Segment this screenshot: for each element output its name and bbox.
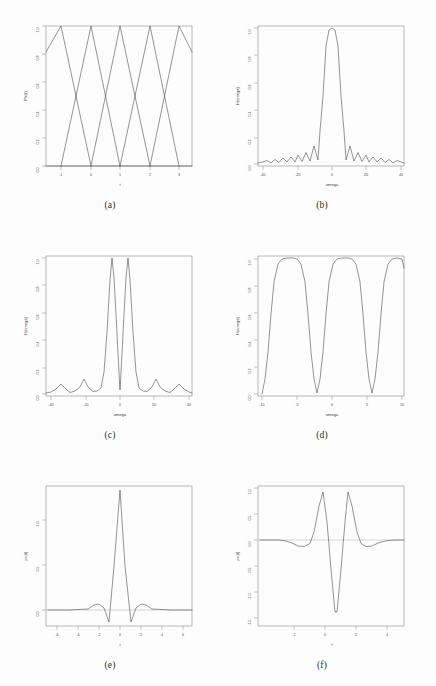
- panel-e-xtick-1: -4: [76, 633, 79, 637]
- panel-b-ylabel: H(omega): [235, 86, 240, 104]
- panel-b-ytick-1: 0.8: [248, 56, 252, 61]
- panel-d-xtick-3: 5: [366, 403, 368, 407]
- panel-e-ytick-1: 0.5: [36, 566, 40, 571]
- panel-d-xtick-0: -10: [259, 403, 264, 407]
- panel-d-xtick-2: 0: [331, 403, 333, 407]
- panel-d: 1.0 0.8 0.6 0.4 0.2 0.0 -10 -5 0 5: [224, 244, 420, 460]
- panel-f-xtick-2: 2: [355, 633, 357, 637]
- panel-f-ytick-2: 0.0: [248, 541, 252, 546]
- panel-c-xticks: -40 -20 0 20 40: [48, 396, 191, 407]
- panel-d-frame: [258, 256, 404, 396]
- panel-c-xtick-3: 20: [152, 403, 156, 407]
- panel-c-xlabel: omega: [114, 412, 127, 417]
- panel-d-ytick-1: 0.8: [248, 287, 252, 292]
- panel-e-xtick-4: 2: [140, 633, 142, 637]
- panel-a-ytick-0: 1.0: [36, 27, 40, 32]
- panel-f-ytick-1: 0.5: [248, 515, 252, 520]
- panel-f-ytick-4: -1.0: [248, 593, 252, 599]
- panel-e-frame: [46, 486, 192, 626]
- panel-a-xtick-0: -1: [59, 173, 62, 177]
- panel-c-ytick-3: 0.4: [36, 341, 40, 346]
- panel-c-caption: (c): [12, 430, 208, 440]
- panel-d-xticks: -10 -5 0 5 10: [259, 396, 404, 407]
- panel-a-xtick-3: 2: [149, 173, 151, 177]
- panel-c-xtick-2: 0: [119, 403, 121, 407]
- panel-b-plot: 1.0 0.8 0.6 0.4 0.2 0.0 -40 -20 0 20: [224, 14, 420, 200]
- panel-b-frame: [258, 26, 404, 166]
- panel-b-xtick-0: -40: [260, 173, 265, 177]
- panel-d-curve: [262, 258, 404, 394]
- panel-c-xtick-1: -20: [83, 403, 88, 407]
- panel-e-xtick-3: 0: [119, 633, 121, 637]
- panel-d-xlabel: omega: [326, 412, 339, 417]
- panel-f-xtick-1: 0: [324, 633, 326, 637]
- panel-f-ylabel: psi(t): [235, 551, 240, 561]
- panel-e: 1.0 0.5 0.0 -6 -4 -2 0 2: [12, 474, 208, 686]
- panel-d-ytick-0: 1.0: [248, 260, 252, 265]
- panel-a-ytick-3: 0.4: [36, 111, 40, 116]
- panel-c-yticks: 1.0 0.8 0.6 0.4 0.2 0.0: [36, 258, 46, 400]
- panel-c-ytick-5: 0.0: [36, 395, 40, 400]
- panel-a-xticks: -1 0 1 2 3: [59, 166, 180, 177]
- panel-c-ytick-4: 0.2: [36, 369, 40, 374]
- panel-d-ytick-5: 0.0: [248, 395, 252, 400]
- panel-b-caption: (b): [224, 200, 420, 210]
- panel-d-caption: (d): [224, 430, 420, 440]
- panel-e-xtick-2: -2: [97, 633, 100, 637]
- panel-a-ylabel: Phi(t): [23, 91, 28, 101]
- panel-b-ytick-3: 0.4: [248, 111, 252, 116]
- panel-b-curve: [258, 28, 404, 163]
- panel-d-ytick-3: 0.4: [248, 341, 252, 346]
- panel-e-xlabel: t: [119, 642, 121, 647]
- panel-a-xtick-4: 3: [178, 173, 180, 177]
- panel-a-frame: [46, 26, 192, 166]
- panel-f-svg: 1.0 0.5 0.0 -0.5 -1.0 -1.5 -2 0 2 4: [224, 474, 420, 660]
- panel-e-curve: [48, 490, 192, 622]
- panel-c: 1.0 0.8 0.6 0.4 0.2 0.0 -40 -20 0 20: [12, 244, 208, 460]
- panel-b-xtick-3: 20: [364, 173, 368, 177]
- panel-b: 1.0 0.8 0.6 0.4 0.2 0.0 -40 -20 0 20: [224, 14, 420, 230]
- panel-b-yticks: 1.0 0.8 0.6 0.4 0.2 0.0: [248, 28, 258, 170]
- panel-f-caption: (f): [224, 660, 420, 670]
- panel-e-plot: 1.0 0.5 0.0 -6 -4 -2 0 2: [12, 474, 208, 660]
- panel-c-xtick-4: 40: [187, 403, 191, 407]
- panel-c-svg: 1.0 0.8 0.6 0.4 0.2 0.0 -40 -20 0 20: [12, 244, 208, 430]
- panel-a-yticks: 1.0 0.8 0.6 0.4 0.2 0.0: [36, 26, 46, 172]
- panel-b-xticks: -40 -20 0 20 40: [260, 166, 403, 177]
- panel-f-ytick-0: 1.0: [248, 489, 252, 494]
- panel-e-ytick-0: 1.0: [36, 521, 40, 526]
- panel-d-svg: 1.0 0.8 0.6 0.4 0.2 0.0 -10 -5 0 5: [224, 244, 420, 430]
- panel-b-xtick-1: -20: [295, 173, 300, 177]
- panel-b-ytick-4: 0.2: [248, 139, 252, 144]
- panel-c-plot: 1.0 0.8 0.6 0.4 0.2 0.0 -40 -20 0 20: [12, 244, 208, 430]
- panel-c-xtick-0: -40: [48, 403, 53, 407]
- panel-a-ytick-5: 0.0: [36, 167, 40, 172]
- panel-c-ytick-0: 1.0: [36, 259, 40, 264]
- panel-a-plot: 1.0 0.8 0.6 0.4 0.2 0.0 -1 0 1 2: [12, 14, 208, 200]
- panel-f-xlabel: t: [331, 642, 333, 647]
- panel-c-ytick-1: 0.8: [36, 286, 40, 291]
- panel-d-ylabel: H(omega): [235, 316, 240, 334]
- panel-f: 1.0 0.5 0.0 -0.5 -1.0 -1.5 -2 0 2 4: [224, 474, 420, 686]
- panel-b-ytick-5: 0.0: [248, 165, 252, 170]
- panel-e-svg: 1.0 0.5 0.0 -6 -4 -2 0 2: [12, 474, 208, 660]
- panel-e-xtick-6: 6: [182, 633, 184, 637]
- panel-a-curves: [46, 26, 192, 166]
- panel-e-xtick-5: 4: [161, 633, 163, 637]
- panel-e-caption: (e): [12, 660, 208, 670]
- panel-a-ytick-1: 0.8: [36, 55, 40, 60]
- panel-a-xlabel: t: [119, 182, 121, 187]
- panel-c-ytick-2: 0.6: [36, 314, 40, 319]
- panel-f-yticks: 1.0 0.5 0.0 -0.5 -1.0 -1.5: [248, 488, 258, 626]
- figure-page: 1.0 0.8 0.6 0.4 0.2 0.0 -1 0 1 2: [0, 0, 436, 686]
- panel-d-plot: 1.0 0.8 0.6 0.4 0.2 0.0 -10 -5 0 5: [224, 244, 420, 430]
- panel-e-ytick-2: 0.0: [36, 611, 40, 616]
- panel-a: 1.0 0.8 0.6 0.4 0.2 0.0 -1 0 1 2: [12, 14, 208, 230]
- panel-d-xtick-1: -5: [295, 403, 298, 407]
- panel-f-plot: 1.0 0.5 0.0 -0.5 -1.0 -1.5 -2 0 2 4: [224, 474, 420, 660]
- panel-b-ytick-2: 0.6: [248, 84, 252, 89]
- panel-b-xtick-4: 40: [399, 173, 403, 177]
- panel-a-ytick-4: 0.2: [36, 139, 40, 144]
- panel-a-caption: (a): [12, 200, 208, 210]
- panel-f-frame: [258, 486, 404, 626]
